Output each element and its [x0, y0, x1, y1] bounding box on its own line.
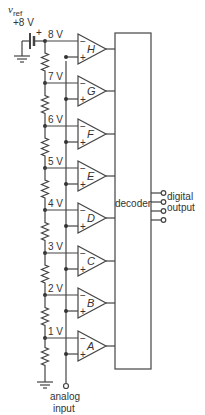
digital-output-label-2: output: [167, 202, 195, 213]
node-voltage-label: 5 V: [48, 156, 63, 167]
minus-sign: −: [80, 78, 86, 89]
comparator-label: A: [86, 340, 94, 352]
digital-output-terminals[interactable]: [151, 191, 166, 223]
comparator-label: E: [87, 170, 95, 182]
comparator-label: H: [87, 43, 95, 55]
analog-input-label-1: analog: [50, 391, 80, 402]
comparator-label: B: [87, 297, 94, 309]
minus-sign: −: [80, 333, 86, 344]
digital-output-label-1: digital: [167, 191, 193, 202]
plus-sign: +: [80, 349, 86, 360]
plus-sign: +: [80, 264, 86, 275]
ground-icon-bottom: [37, 375, 53, 388]
vref-label: vref: [8, 3, 22, 18]
comparator-label: D: [87, 212, 95, 224]
analog-input-label-2: input: [53, 403, 75, 414]
minus-sign: −: [80, 121, 86, 132]
vref-value: +8 V: [13, 17, 34, 28]
minus-sign: −: [80, 248, 86, 259]
node-voltage-label: 7 V: [48, 71, 63, 82]
comparator-a: [42, 331, 116, 375]
comparator-label: C: [87, 255, 95, 267]
ground-icon: [14, 56, 30, 62]
plus-sign: +: [80, 306, 86, 317]
minus-sign: −: [80, 36, 86, 47]
battery-plus-sign: +: [36, 27, 42, 38]
minus-sign: −: [80, 205, 86, 216]
comparator-label: G: [87, 85, 96, 97]
node-voltage-label: 8 V: [48, 29, 63, 40]
plus-sign: +: [80, 179, 86, 190]
plus-sign: +: [80, 52, 86, 63]
minus-sign: −: [80, 163, 86, 174]
node-voltage-label: 6 V: [48, 114, 63, 125]
plus-sign: +: [80, 137, 86, 148]
node-voltage-label: 1 V: [48, 326, 63, 337]
plus-sign: +: [80, 94, 86, 105]
decoder-label: decoder: [115, 198, 151, 209]
node-voltage-label: 2 V: [48, 283, 63, 294]
node-voltage-label: 3 V: [48, 241, 63, 252]
minus-sign: −: [80, 290, 86, 301]
analog-input-terminal[interactable]: [64, 384, 69, 389]
node-voltage-label: 4 V: [48, 198, 63, 209]
plus-sign: +: [80, 221, 86, 232]
